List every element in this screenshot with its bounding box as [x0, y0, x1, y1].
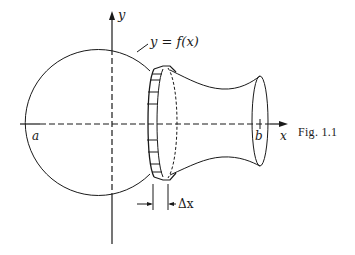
curve-label: y = f(x) [150, 35, 199, 48]
y-axis-label: y [118, 8, 125, 21]
y-axis-arrow-icon [109, 11, 115, 20]
delta-x-label: Δx [178, 198, 193, 210]
figure-caption: Fig. 1.1 [298, 126, 337, 138]
x-axis [20, 121, 288, 127]
x-axis-arrow-icon [279, 121, 288, 127]
lower-profile-curve [170, 157, 260, 175]
curve-label-leader [137, 44, 148, 52]
delta-x-dimension [137, 184, 176, 210]
upper-profile-curve [170, 70, 260, 89]
point-label-b: b [255, 130, 263, 142]
disk-slice [147, 66, 177, 180]
point-label-a: a [32, 130, 39, 142]
x-axis-label: x [280, 130, 287, 142]
y-axis [109, 11, 115, 244]
bulb-outline [25, 50, 150, 196]
